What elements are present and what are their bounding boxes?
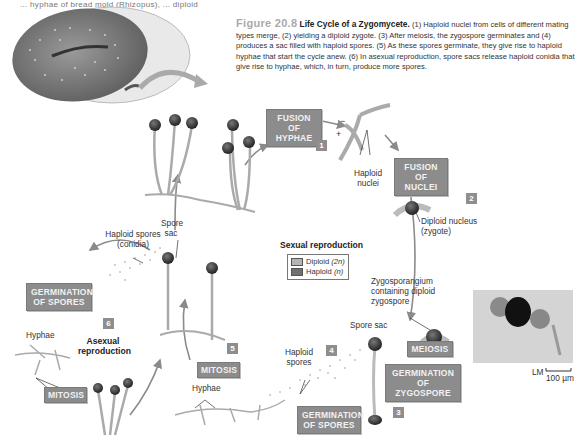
ploidy-legend: Diploid (2n) Haploid (n) [287,254,349,280]
scale-bar [546,368,571,371]
step-number-3: 3 [393,407,404,418]
diploid-swatch-icon [291,258,303,266]
annotation-hyphae-right: Hyphae [192,383,221,393]
legend-item-diploid: Diploid (2n) [291,257,345,267]
conidia-cloud-icon [109,247,161,281]
annotation-minus: − [340,116,345,126]
label-fusion-of-nuclei: FUSION OF NUCLEI [394,158,448,196]
germinating-zygospore-icon [368,337,382,425]
bread-slice-icon [6,0,190,110]
sporangiophore-bottom-icon [93,378,133,435]
section-title-sexual: Sexual reproduction [280,240,363,250]
annotation-spore-sac-left: Spore sac [161,218,181,238]
micrograph-type-label: LM [532,367,544,377]
annotation-haploid-spores-conidia: Haploid spores (conidia) [103,229,163,249]
annotation-zygosporangium: Zygosporangium containing diploid zygosp… [371,276,443,306]
annotation-plus: + [336,129,341,139]
section-title-asexual: Asexual reproduction [78,336,128,356]
step-number-6: 6 [103,318,114,329]
annotation-diploid-nucleus: Diploid nucleus (zygote) [421,216,493,236]
step-number-2: 2 [466,193,477,204]
annotation-spore-sac-right: Spore sac [350,320,387,330]
label-mitosis-right: MITOSIS [197,362,240,378]
figure-title: Life Cycle of a Zygomycete. [300,19,410,29]
annotation-haploid-spores: Haploid spores [282,347,316,367]
haploid-swatch-icon [291,268,303,276]
zygote-icon [395,201,430,215]
step-number-1: 1 [316,140,327,151]
annotation-haploid-nuclei: Haploid nuclei [350,168,386,188]
label-mitosis-left: MITOSIS [44,387,87,403]
label-fusion-of-hyphae: FUSION OF HYPHAE [266,109,322,147]
label-germination-of-zygospore: GERMINATION OF ZYGOSPORE [385,364,461,402]
figure-caption: Figure 20.8 Life Cycle of a Zygomycete. … [236,18,581,73]
sporangiophore-asexual-icon [160,252,225,340]
legend-item-haploid: Haploid (n) [291,267,345,277]
sporangiophore-icon [145,114,255,212]
hyphae-fusion-icon [340,105,390,160]
annotation-hyphae-left: Hyphae [26,330,55,340]
step-number-4: 4 [326,345,337,356]
label-germination-of-spores-asexual: GERMINATION OF SPORES [26,283,92,311]
micrograph-image [473,290,573,363]
label-meiosis: MEIOSIS [407,341,453,357]
micrograph-scale-label: 100 µm [546,373,574,383]
label-germination-of-spores-sexual: GERMINATION OF SPORES [297,406,361,434]
figure-number: Figure 20.8 [236,17,297,29]
step-number-5: 5 [227,343,238,354]
